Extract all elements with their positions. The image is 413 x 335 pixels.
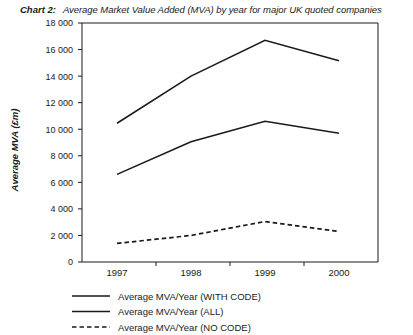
y-axis-tick-label: 18 000 (45, 18, 73, 28)
x-axis-tick-label: 1999 (254, 267, 275, 278)
y-axis-tick-label: 10 000 (45, 125, 73, 135)
y-axis-tick-label: 0 (68, 257, 73, 267)
x-axis-tick-label: 1997 (106, 267, 127, 278)
y-axis-tick-label: 16 000 (45, 45, 73, 55)
series-line-2 (117, 222, 339, 244)
y-axis-tick-label: 4 000 (50, 204, 73, 214)
series-line-0 (117, 40, 339, 123)
legend-label-0: Average MVA/Year (WITH CODE) (118, 291, 261, 302)
y-axis-tick-labels: 18 00016 00014 00012 00010 0008 0006 000… (45, 18, 73, 267)
chart-legend: Average MVA/Year (WITH CODE)Average MVA/… (72, 291, 261, 333)
x-axis-tick-label: 1998 (180, 267, 201, 278)
chart-container: Chart 2: Average Market Value Added (MVA… (0, 0, 413, 335)
chart-plot: 18 00016 00014 00012 00010 0008 0006 000… (0, 0, 413, 335)
y-axis-tick-marks (78, 23, 82, 262)
series-group (117, 40, 339, 243)
x-axis-tick-labels: 1997199819992000 (106, 267, 349, 278)
y-axis-tick-label: 12 000 (45, 98, 73, 108)
legend-label-1: Average MVA/Year (ALL) (118, 306, 223, 317)
x-axis-tick-label: 2000 (328, 267, 349, 278)
y-axis-tick-label: 8 000 (50, 151, 73, 161)
series-line-1 (117, 121, 339, 174)
y-axis-title: Average MVA (£m) (9, 109, 20, 193)
y-axis-tick-label: 6 000 (50, 178, 73, 188)
x-axis-tick-marks (156, 262, 304, 266)
y-axis-tick-label: 14 000 (45, 72, 73, 82)
y-axis-tick-label: 2 000 (50, 231, 73, 241)
legend-label-2: Average MVA/Year (NO CODE) (118, 322, 251, 333)
